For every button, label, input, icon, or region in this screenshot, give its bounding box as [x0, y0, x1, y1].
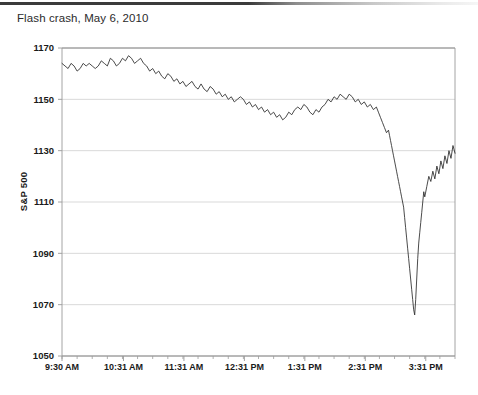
y-tick-label: 1070 — [33, 299, 54, 310]
x-tick-label: 11:31 AM — [165, 362, 204, 372]
y-tick-label: 1170 — [33, 42, 54, 53]
x-tick-label: 10:31 AM — [104, 362, 143, 372]
x-tick-label: 2:31 PM — [348, 362, 382, 372]
y-tick-label: 1050 — [33, 350, 54, 361]
series-line-sp500 — [62, 56, 455, 315]
y-tick-label: 1130 — [33, 145, 54, 156]
x-tick-label: 9:30 AM — [45, 362, 79, 372]
y-tick-label: 1090 — [33, 248, 54, 259]
flash-crash-line-chart: 1050107010901110113011501170 — [0, 0, 478, 395]
chart-plot-area: S&P 500 1050107010901110113011501170 9:3… — [0, 0, 478, 395]
x-tick-label: 1:31 PM — [288, 362, 322, 372]
y-tick-label: 1110 — [34, 196, 54, 207]
y-tick-label: 1150 — [33, 94, 54, 105]
x-tick-label: 3:31 PM — [409, 362, 443, 372]
x-tick-label: 12:31 PM — [225, 362, 264, 372]
